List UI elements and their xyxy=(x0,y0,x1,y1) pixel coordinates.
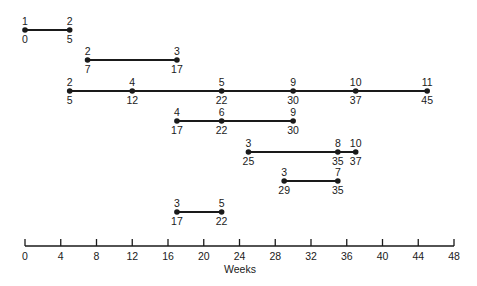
event-week-label: 22 xyxy=(216,124,228,136)
event-week-label: 29 xyxy=(278,184,290,196)
chain-row: 1025 xyxy=(22,15,73,45)
event-node-dot xyxy=(67,88,73,94)
event-node-dot xyxy=(174,118,180,124)
event-id-label: 3 xyxy=(281,166,287,178)
event-id-label: 9 xyxy=(290,76,296,88)
event-node-dot xyxy=(22,27,28,33)
event-week-label: 5 xyxy=(67,94,73,106)
event-week-label: 12 xyxy=(126,94,138,106)
event-week-label: 17 xyxy=(171,215,183,227)
event-id-label: 10 xyxy=(350,76,362,88)
event-week-label: 5 xyxy=(67,33,73,45)
event-node-dot xyxy=(424,88,430,94)
axis-tick-label: 8 xyxy=(94,250,100,262)
event-id-label: 5 xyxy=(219,197,225,209)
weeks-axis: 04812162024283236404448Weeks xyxy=(22,239,460,275)
event-node-dot xyxy=(353,149,359,155)
event-node-dot xyxy=(353,88,359,94)
axis-tick-label: 0 xyxy=(22,250,28,262)
event-id-label: 8 xyxy=(335,137,341,149)
event-id-label: 9 xyxy=(290,106,296,118)
event-week-label: 22 xyxy=(216,215,228,227)
event-node-dot xyxy=(219,118,225,124)
event-week-label: 37 xyxy=(350,94,362,106)
axis-tick-label: 4 xyxy=(58,250,64,262)
event-week-label: 0 xyxy=(22,33,28,45)
event-week-label: 25 xyxy=(243,155,255,167)
timeline-diagram: 1025273172541252293010371145417622930325… xyxy=(0,0,477,286)
chain-row: 2541252293010371145 xyxy=(67,76,433,106)
axis-tick-label: 44 xyxy=(412,250,424,262)
event-week-label: 37 xyxy=(350,155,362,167)
event-node-dot xyxy=(67,27,73,33)
axis-tick-label: 28 xyxy=(269,250,281,262)
axis-tick-label: 40 xyxy=(377,250,389,262)
axis-tick-label: 36 xyxy=(341,250,353,262)
event-id-label: 2 xyxy=(67,76,73,88)
event-id-label: 3 xyxy=(174,197,180,209)
event-id-label: 4 xyxy=(129,76,135,88)
axis-tick-label: 32 xyxy=(305,250,317,262)
event-node-dot xyxy=(246,149,252,155)
event-id-label: 4 xyxy=(174,106,180,118)
event-week-label: 30 xyxy=(287,94,299,106)
event-week-label: 17 xyxy=(171,124,183,136)
event-node-dot xyxy=(129,88,135,94)
chain-row: 3258351037 xyxy=(243,137,362,167)
event-week-label: 30 xyxy=(287,124,299,136)
event-node-dot xyxy=(174,209,180,215)
event-node-dot xyxy=(290,118,296,124)
activity-chains: 1025273172541252293010371145417622930325… xyxy=(22,15,433,227)
event-node-dot xyxy=(335,178,341,184)
chain-row: 417622930 xyxy=(171,106,299,136)
event-id-label: 11 xyxy=(422,76,433,88)
event-node-dot xyxy=(290,88,296,94)
event-week-label: 17 xyxy=(171,63,183,75)
event-node-dot xyxy=(335,149,341,155)
event-id-label: 6 xyxy=(219,106,225,118)
chain-row: 317522 xyxy=(171,197,228,227)
axis-tick-label: 16 xyxy=(162,250,174,262)
chain-row: 329735 xyxy=(278,166,343,196)
axis-tick-label: 12 xyxy=(126,250,138,262)
event-id-label: 3 xyxy=(174,45,180,57)
event-id-label: 3 xyxy=(246,137,252,149)
event-week-label: 45 xyxy=(421,94,433,106)
event-week-label: 35 xyxy=(332,184,344,196)
event-id-label: 10 xyxy=(350,137,362,149)
event-node-dot xyxy=(174,57,180,63)
event-id-label: 2 xyxy=(67,15,73,27)
event-node-dot xyxy=(85,57,91,63)
event-node-dot xyxy=(219,209,225,215)
event-node-dot xyxy=(219,88,225,94)
event-id-label: 2 xyxy=(85,45,91,57)
axis-tick-label: 48 xyxy=(448,250,460,262)
axis-title: Weeks xyxy=(224,263,256,275)
event-id-label: 5 xyxy=(219,76,225,88)
event-id-label: 1 xyxy=(22,15,28,27)
event-node-dot xyxy=(281,178,287,184)
event-week-label: 22 xyxy=(216,94,228,106)
event-id-label: 7 xyxy=(335,166,341,178)
event-week-label: 7 xyxy=(85,63,91,75)
chain-row: 27317 xyxy=(85,45,183,75)
axis-tick-label: 20 xyxy=(198,250,210,262)
axis-tick-label: 24 xyxy=(234,250,246,262)
